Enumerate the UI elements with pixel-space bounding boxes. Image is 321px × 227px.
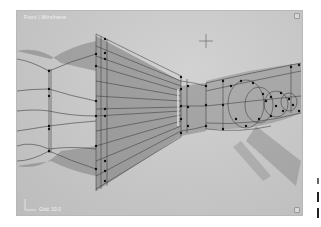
grid-label: Grid: 10.0 xyxy=(39,206,61,212)
3d-viewport[interactable]: Front | Wireframe xyxy=(16,10,303,216)
side-mark xyxy=(317,192,319,202)
crosshair-icon xyxy=(199,34,213,48)
side-mark xyxy=(317,208,319,218)
viewport-resize-icon[interactable] xyxy=(294,207,300,213)
side-mark xyxy=(317,178,319,184)
side-panel-marks xyxy=(316,176,321,220)
wireframe-mesh[interactable] xyxy=(17,11,303,216)
axis-tripod-icon xyxy=(25,199,36,210)
viewport-maximize-icon[interactable] xyxy=(294,13,300,19)
reference-image-shading xyxy=(17,36,301,191)
